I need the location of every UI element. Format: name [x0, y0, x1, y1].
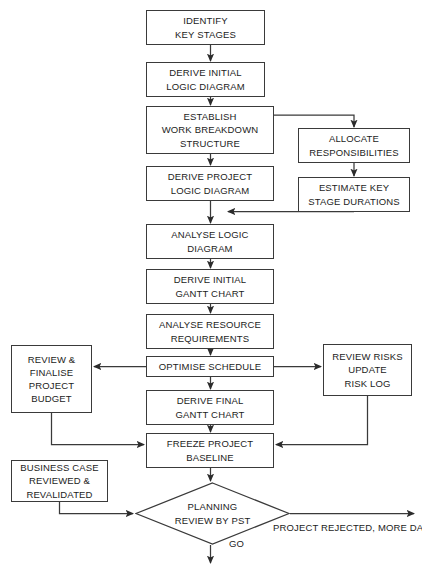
node-line: GANTT CHART [176, 408, 245, 421]
node-line: REQUIREMENTS [171, 332, 249, 345]
node-line: LOGIC DIAGRAM [171, 184, 250, 197]
node-planning-review-by-pst[interactable]: PLANNING REVIEW BY PST [135, 482, 290, 545]
node-line: REVIEWED & [29, 474, 90, 487]
node-line: STRUCTURE [180, 137, 240, 150]
rejection-outcome-line: PROJECT REJECTED, [273, 522, 375, 533]
node-line: PROJECT [29, 379, 74, 392]
node-optimise-schedule[interactable]: OPTIMISE SCHEDULE [146, 356, 274, 377]
node-line: FINALISE [30, 366, 73, 379]
node-allocate-responsibilities[interactable]: ALLOCATE RESPONSIBILITIES [298, 128, 410, 163]
go-label: GO [229, 538, 244, 549]
node-line: DERIVE INITIAL [174, 273, 246, 286]
node-establish-work-breakdown-structure[interactable]: ESTABLISH WORK BREAKDOWN STRUCTURE [146, 106, 274, 154]
node-line: DERIVE INITIAL [169, 66, 241, 79]
node-line: REVIEW RISKS [332, 350, 402, 363]
node-line: RESPONSIBILITIES [309, 146, 399, 159]
node-derive-initial-logic-diagram[interactable]: DERIVE INITIAL LOGIC DIAGRAM [146, 62, 265, 97]
node-estimate-key-stage-durations[interactable]: ESTIMATE KEY STAGE DURATIONS [298, 177, 410, 212]
node-line: ESTIMATE KEY [319, 181, 389, 194]
node-line: BUDGET [31, 392, 72, 405]
edge-review-risks-to-freeze [276, 396, 368, 445]
node-derive-project-logic-diagram[interactable]: DERIVE PROJECT LOGIC DIAGRAM [146, 166, 274, 201]
node-analyse-logic-diagram[interactable]: ANALYSE LOGIC DIAGRAM [146, 224, 274, 259]
node-line: STAGE DURATIONS [308, 195, 400, 208]
node-line: WORK BREAKDOWN [162, 123, 259, 136]
node-freeze-project-baseline[interactable]: FREEZE PROJECT BASELINE [146, 433, 274, 468]
edge-business-case-to-planning-review [60, 502, 134, 514]
node-line: REVIEW & [28, 353, 76, 366]
node-line: PLANNING [188, 500, 238, 513]
node-review-risks-update-risk-log[interactable]: REVIEW RISKS UPDATE RISK LOG [323, 344, 412, 396]
node-line: KEY STAGES [175, 28, 236, 41]
node-identify-key-stages[interactable]: IDENTIFY KEY STAGES [146, 10, 265, 45]
node-line: DERIVE FINAL [177, 394, 244, 407]
node-line: BASELINE [186, 451, 234, 464]
node-business-case-reviewed-revalidated[interactable]: BUSINESS CASE REVIEWED & REVALIDATED [11, 460, 108, 502]
node-line: ANALYSE RESOURCE [159, 318, 261, 331]
node-line: GANTT CHART [176, 287, 245, 300]
edge-establish-to-allocate [274, 115, 354, 127]
node-derive-final-gantt-chart[interactable]: DERIVE FINAL GANTT CHART [146, 390, 274, 425]
node-line: REVALIDATED [26, 488, 92, 501]
node-line: ANALYSE LOGIC [171, 228, 248, 241]
node-line: UPDATE [348, 363, 387, 376]
decision-label: PLANNING REVIEW BY PST [135, 482, 290, 545]
node-line: OPTIMISE SCHEDULE [159, 360, 261, 373]
node-line: LOGIC DIAGRAM [166, 80, 245, 93]
node-line: IDENTIFY [183, 14, 227, 27]
node-analyse-resource-requirements[interactable]: ANALYSE RESOURCE REQUIREMENTS [146, 314, 274, 349]
node-line: FREEZE PROJECT [167, 437, 254, 450]
node-line: DIAGRAM [187, 242, 232, 255]
rejection-outcome-text: PROJECT REJECTED, MORE DATA REQUESTED OR… [273, 521, 422, 534]
node-line: REVIEW BY PST [175, 514, 251, 527]
node-line: BUSINESS CASE [20, 461, 99, 474]
node-line: DERIVE PROJECT [168, 170, 252, 183]
node-derive-initial-gantt-chart[interactable]: DERIVE INITIAL GANTT CHART [146, 269, 274, 304]
node-line: ALLOCATE [329, 132, 379, 145]
node-line: RISK LOG [344, 377, 390, 390]
flowchart-canvas: IDENTIFY KEY STAGES DERIVE INITIAL LOGIC… [0, 0, 422, 568]
node-review-finalise-project-budget[interactable]: REVIEW & FINALISE PROJECT BUDGET [11, 345, 92, 413]
rejection-outcome-line: MORE DATA REQUESTED [378, 522, 422, 533]
edge-review-budget-to-freeze [52, 413, 145, 445]
node-line: ESTABLISH [184, 110, 237, 123]
